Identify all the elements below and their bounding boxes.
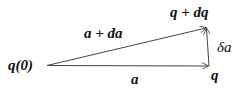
- label-delta-vector: δa: [217, 39, 231, 55]
- label-bottom-endpoint: q: [211, 67, 219, 83]
- vector-delta-a-arrow: [207, 29, 210, 67]
- vector-a-arrow: [47, 66, 208, 67]
- label-top-vector: a + da: [84, 25, 123, 41]
- label-top-endpoint: q + dq: [170, 4, 209, 20]
- vector-a-plus-da-arrow: [47, 28, 206, 66]
- label-bottom-vector: a: [131, 71, 139, 87]
- label-origin: q(0): [8, 57, 33, 74]
- vector-diagram: q(0) a + da q + dq δa q a: [0, 0, 245, 90]
